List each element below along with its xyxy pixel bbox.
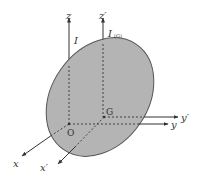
x-prime-axis-label: x′ bbox=[40, 162, 49, 173]
origin-label: O bbox=[67, 128, 74, 138]
x-axis-label: x bbox=[13, 158, 19, 169]
y-prime-axis-label: y′ bbox=[180, 112, 190, 123]
z-axis-label: z bbox=[65, 10, 72, 21]
center-of-mass-point bbox=[103, 116, 105, 118]
z-prime-moment-subscript: (G) bbox=[114, 33, 122, 39]
center-of-mass-label: G bbox=[106, 107, 113, 117]
y-axis-label: y bbox=[170, 119, 177, 130]
rigid-body-ellipse bbox=[24, 17, 176, 177]
parallel-axis-diagram: z I z′ I (G) O G y y′ x x′ bbox=[0, 0, 203, 185]
origin-point bbox=[68, 123, 70, 125]
z-axis-moment-label: I bbox=[73, 35, 79, 46]
diagram-canvas: z I z′ I (G) O G y y′ x x′ bbox=[0, 0, 203, 185]
z-prime-axis-label: z′ bbox=[98, 10, 107, 21]
x-axis bbox=[22, 135, 52, 156]
